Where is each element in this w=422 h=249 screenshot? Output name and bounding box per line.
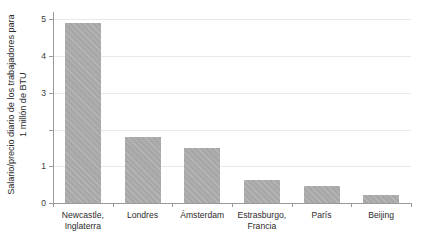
x-tick-label-line: Londres <box>113 210 173 221</box>
x-tick-mark-5 <box>351 203 352 207</box>
bar-chart: Salario/precio diario de los trabajadore… <box>0 0 422 249</box>
gridline-y-5 <box>53 19 411 20</box>
y-tick-label-0: 0 <box>32 198 46 208</box>
bar <box>184 148 220 203</box>
x-tick-label: Londres <box>113 210 173 221</box>
x-tick-label: Ámsterdam <box>172 210 232 221</box>
plot-area <box>53 12 411 203</box>
bar <box>244 180 280 203</box>
x-tick-label-line: Beijing <box>351 210 411 221</box>
x-tick-label-line: París <box>292 210 352 221</box>
bar <box>363 195 399 203</box>
x-tick-mark-0 <box>53 203 54 207</box>
gridline-y-1 <box>53 166 411 167</box>
bar <box>125 137 161 203</box>
gridline-y-3 <box>53 93 411 94</box>
y-axis-title-line-1: Salario/precio diario de los trabajadore… <box>5 15 17 196</box>
y-axis-line <box>53 12 54 204</box>
x-tick-mark-4 <box>292 203 293 207</box>
x-tick-label-line: Francia <box>232 221 292 232</box>
gridline-y-2 <box>53 130 411 131</box>
x-tick-mark-3 <box>232 203 233 207</box>
x-tick-label-line: Inglaterra <box>53 221 113 232</box>
gridline-y-4 <box>53 56 411 57</box>
bar <box>65 23 101 203</box>
y-tick-label-3: 3 <box>32 88 46 98</box>
y-tick-mark-4 <box>49 56 53 57</box>
bar <box>304 186 340 203</box>
plot-inner <box>53 12 411 203</box>
y-tick-label-4: 4 <box>32 51 46 61</box>
y-tick-label-5: 5 <box>32 14 46 24</box>
y-axis-title: Salario/precio diario de los trabajadore… <box>0 0 34 210</box>
x-tick-label: Estrasburgo,Francia <box>232 210 292 232</box>
y-tick-label-1: 1 <box>32 161 46 171</box>
x-tick-label: Newcastle,Inglaterra <box>53 210 113 232</box>
x-tick-label-line: Ámsterdam <box>172 210 232 221</box>
y-tick-mark-5 <box>49 19 53 20</box>
y-axis-title-line-2: 1 millón de BTU <box>17 15 29 196</box>
y-tick-mark-1 <box>49 166 53 167</box>
x-tick-mark-6 <box>411 203 412 207</box>
y-tick-mark-3 <box>49 93 53 94</box>
x-tick-mark-1 <box>113 203 114 207</box>
x-tick-label-line: Newcastle, <box>53 210 113 221</box>
x-tick-label: Beijing <box>351 210 411 221</box>
x-tick-mark-2 <box>172 203 173 207</box>
y-tick-mark-2 <box>49 130 53 131</box>
x-tick-label: París <box>292 210 352 221</box>
x-tick-label-line: Estrasburgo, <box>232 210 292 221</box>
